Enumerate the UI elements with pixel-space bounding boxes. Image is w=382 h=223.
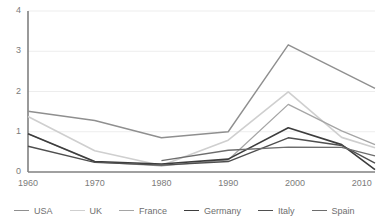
legend-swatch-icon xyxy=(119,210,134,211)
legend-label: UK xyxy=(90,206,103,216)
gridlines xyxy=(28,11,375,132)
legend-item-germany[interactable]: Germany xyxy=(184,206,241,216)
chart-plot-area xyxy=(0,0,382,223)
y-axis-tick-label: 4 xyxy=(5,5,21,15)
legend-label: Spain xyxy=(332,206,355,216)
legend-label: Germany xyxy=(204,206,241,216)
legend-label: France xyxy=(139,206,167,216)
x-axis-tick-label: 1990 xyxy=(208,178,248,188)
line-chart: 01234 196019701980199020002010 USAUKFran… xyxy=(0,0,382,223)
legend-swatch-icon xyxy=(14,210,29,211)
legend-swatch-icon xyxy=(258,210,273,211)
chart-legend: USAUKFranceGermanyItalySpain xyxy=(0,198,382,223)
series-line-france xyxy=(28,104,375,166)
legend-label: USA xyxy=(34,206,53,216)
x-axis-tick-label: 1980 xyxy=(141,178,181,188)
data-series-group xyxy=(28,45,375,170)
y-axis-tick-label: 2 xyxy=(5,86,21,96)
legend-item-usa[interactable]: USA xyxy=(14,206,53,216)
legend-swatch-icon xyxy=(312,210,327,211)
x-axis-tick-label: 1970 xyxy=(75,178,115,188)
x-axis-tick-label: 2000 xyxy=(275,178,315,188)
legend-item-france[interactable]: France xyxy=(119,206,167,216)
legend-item-uk[interactable]: UK xyxy=(70,206,103,216)
y-axis-tick-label: 1 xyxy=(5,126,21,136)
legend-swatch-icon xyxy=(70,210,85,211)
legend-item-spain[interactable]: Spain xyxy=(312,206,355,216)
x-axis-tick-label: 1960 xyxy=(8,178,48,188)
legend-item-italy[interactable]: Italy xyxy=(258,206,295,216)
x-axis-tick-label: 2010 xyxy=(342,178,382,188)
y-axis-tick-label: 3 xyxy=(5,45,21,55)
legend-swatch-icon xyxy=(184,210,199,211)
y-axis-tick-label: 0 xyxy=(5,166,21,176)
legend-label: Italy xyxy=(278,206,295,216)
